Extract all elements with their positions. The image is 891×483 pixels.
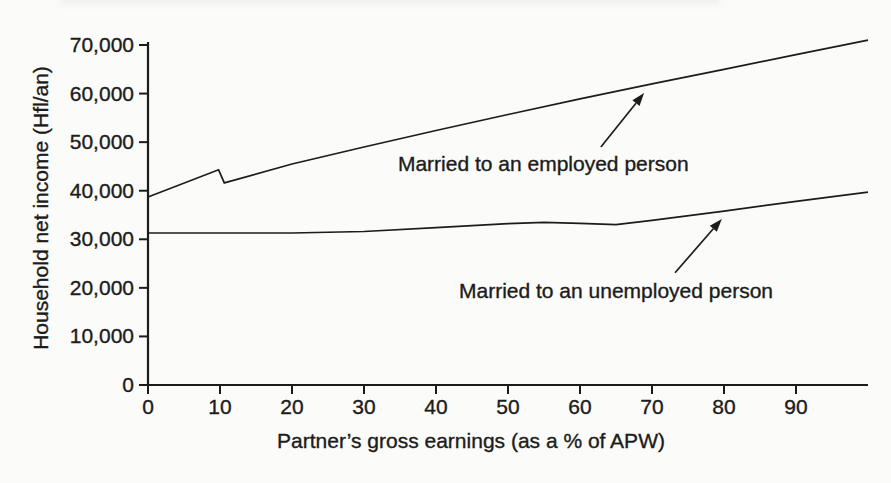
x-tick-label: 0 <box>118 396 178 418</box>
x-tick-label: 40 <box>406 396 466 418</box>
x-tick-label: 80 <box>694 396 754 418</box>
y-tick-label: 0 <box>54 374 134 396</box>
y-tick-label: 20,000 <box>54 277 134 299</box>
series-line-unemployed <box>148 192 868 233</box>
x-tick-label: 20 <box>262 396 322 418</box>
y-tick-label: 40,000 <box>54 180 134 202</box>
x-tick-label: 50 <box>478 396 538 418</box>
y-tick-label: 70,000 <box>54 34 134 56</box>
annotation-arrowhead-employed <box>632 93 644 106</box>
x-axis-title: Partner’s gross earnings (as a % of APW) <box>277 429 665 452</box>
x-tick-label: 30 <box>334 396 394 418</box>
y-axis-title: Household net income (Hfl/an) <box>29 66 52 350</box>
x-tick-label: 10 <box>190 396 250 418</box>
y-tick-label: 10,000 <box>54 325 134 347</box>
annotation-arrow-employed <box>601 103 636 147</box>
y-tick-label: 60,000 <box>54 83 134 105</box>
x-tick-label: 70 <box>622 396 682 418</box>
annotation-arrow-unemployed <box>675 229 713 273</box>
x-tick-label: 60 <box>550 396 610 418</box>
y-tick-label: 50,000 <box>54 131 134 153</box>
annotation-unemployed-label: Married to an unemployed person <box>459 278 773 301</box>
annotation-employed-label: Married to an employed person <box>398 152 689 175</box>
y-tick-label: 30,000 <box>54 228 134 250</box>
chart-figure: 010,00020,00030,00040,00050,00060,00070,… <box>0 0 891 483</box>
x-tick-label: 90 <box>766 396 826 418</box>
